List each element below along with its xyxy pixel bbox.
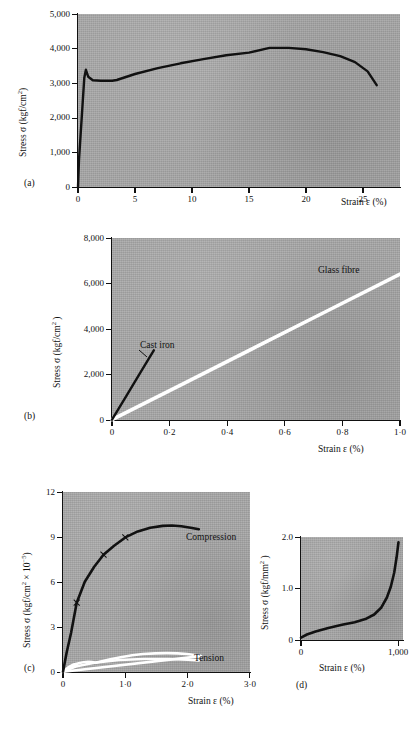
- curve-d-rubber: [301, 542, 399, 637]
- curve-d-svg: [0, 0, 414, 736]
